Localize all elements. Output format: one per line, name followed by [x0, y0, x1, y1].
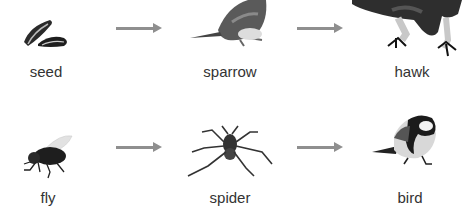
fly-icon	[20, 134, 76, 180]
arrow-icon	[297, 146, 335, 149]
spider-icon	[184, 124, 276, 178]
organism-label: fly	[0, 189, 98, 206]
organism-label: seed	[0, 63, 96, 80]
seed-icon	[20, 16, 72, 48]
arrow-icon	[297, 27, 335, 30]
organism-label: sparrow	[180, 63, 280, 80]
organism-label: bird	[360, 189, 460, 206]
arrow-icon	[116, 27, 154, 30]
arrow-icon	[116, 146, 154, 149]
bird-icon	[368, 112, 442, 168]
sparrow-icon	[188, 0, 274, 48]
organism-label: spider	[180, 189, 280, 206]
organism-label: hawk	[362, 63, 462, 80]
hawk-icon	[352, 0, 462, 58]
